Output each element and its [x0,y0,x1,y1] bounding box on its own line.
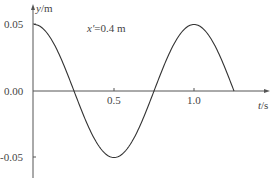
ytick-label-bottom: -0.05 [0,152,23,163]
x-axis-arrow-icon [264,89,270,93]
chart-canvas [0,0,274,188]
y-axis-arrow-icon [31,4,35,10]
x-axis-label: t/s [258,100,268,111]
ytick-label-zero: 0.00 [4,86,23,97]
annotation: x′=0.4 m [87,23,126,34]
y-axis-label: y/m [36,3,53,14]
xtick-label-1: 0.5 [107,95,121,106]
ytick-label-top: 0.05 [4,19,23,30]
xtick-label-2: 1.0 [187,95,201,106]
